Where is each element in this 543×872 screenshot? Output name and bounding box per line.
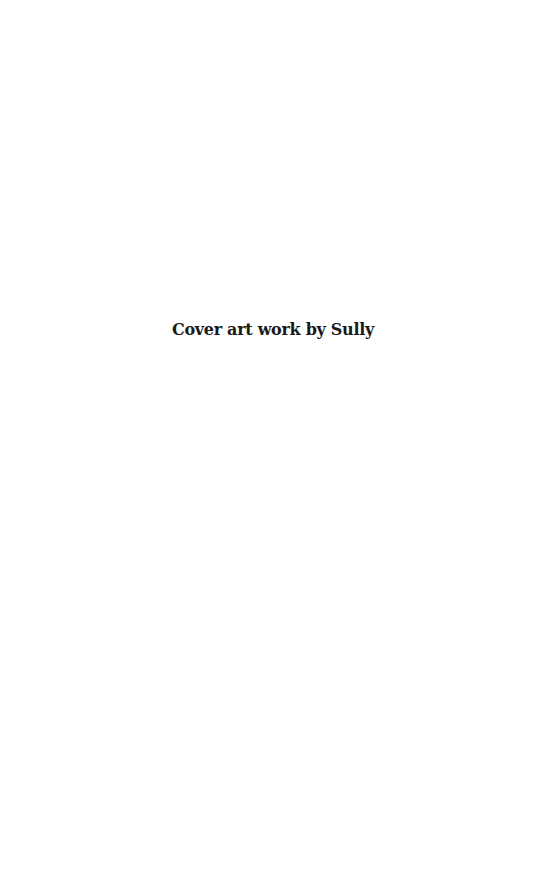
document-page: Cover art work by Sully [0, 0, 543, 872]
cover-art-credit: Cover art work by Sully [172, 320, 374, 339]
